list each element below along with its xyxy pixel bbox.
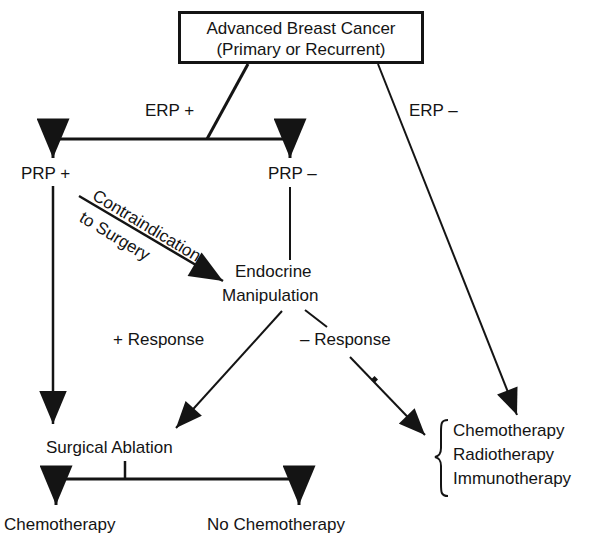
node-therapies: Chemotherapy Radiotherapy Immunotherapy (453, 419, 571, 491)
edge-label-neg-response: – Response (300, 330, 391, 350)
edge-neg-response-upper (305, 310, 327, 327)
edge-pos-response (176, 311, 282, 428)
node-endocrine-line2: Manipulation (222, 286, 318, 306)
root-line2: (Primary or Recurrent) (181, 39, 421, 60)
root-line1: Advanced Breast Cancer (181, 18, 421, 39)
edge-root-erp-pos (207, 64, 248, 139)
node-prp-pos: PRP + (21, 164, 70, 184)
node-surgical-ablation: Surgical Ablation (46, 438, 173, 458)
therapies-brace (435, 420, 448, 496)
node-chemotherapy: Chemotherapy (4, 515, 116, 535)
therapy-chemotherapy: Chemotherapy (453, 419, 571, 443)
therapy-immunotherapy: Immunotherapy (453, 467, 571, 491)
therapy-radiotherapy: Radiotherapy (453, 443, 571, 467)
root-node: Advanced Breast Cancer (Primary or Recur… (178, 11, 424, 64)
edge-label-erp-neg: ERP – (409, 101, 458, 121)
node-prp-neg: PRP – (268, 164, 317, 184)
flowchart-canvas: Advanced Breast Cancer (Primary or Recur… (0, 0, 613, 542)
edge-neg-response-lower (350, 357, 425, 435)
edge-label-pos-response: + Response (113, 330, 204, 350)
node-no-chemotherapy: No Chemotherapy (207, 515, 345, 535)
node-endocrine-line1: Endocrine (235, 262, 312, 282)
tick-mark (371, 376, 378, 383)
edge-label-erp-pos: ERP + (145, 101, 194, 121)
